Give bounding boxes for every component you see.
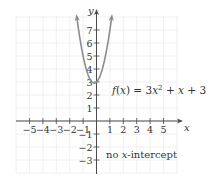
y-tick-label: −3: [78, 155, 92, 166]
function-plus: +: [163, 84, 178, 96]
y-tick-label: 1: [86, 103, 92, 114]
y-axis-label: y: [87, 5, 94, 16]
note-pre: no: [106, 149, 122, 160]
function-label: f(x) = 3x2 + x + 3: [111, 84, 206, 96]
parabola-line: [77, 17, 112, 83]
note-post: -intercept: [127, 149, 177, 160]
y-tick-label: −2: [78, 142, 92, 153]
x-tick-label: 3: [134, 124, 140, 135]
x-tick-label: −2: [63, 124, 77, 135]
x-tick-label: −3: [49, 124, 63, 135]
parabola-graph: −5−4−3−2−112345−3−2−11234567 x y f(x) = …: [0, 0, 211, 183]
x-tick-label: −4: [36, 124, 50, 135]
x-tick-label: −5: [22, 124, 36, 135]
y-tick-label: −1: [78, 129, 92, 140]
x-axis-label: x: [184, 122, 190, 133]
function-eq: = 3: [130, 84, 152, 96]
y-tick-label: 7: [86, 25, 92, 36]
y-tick-label: 6: [86, 38, 92, 49]
no-x-intercept-note: no x-intercept: [106, 149, 177, 160]
y-tick-label: 5: [86, 51, 92, 62]
x-tick-label: 4: [147, 124, 153, 135]
x-tick-label: 1: [107, 124, 113, 135]
y-tick-label: 2: [86, 90, 92, 101]
function-constant: + 3: [184, 84, 206, 96]
parabola-curve: [75, 14, 114, 83]
x-tick-label: 2: [120, 124, 126, 135]
x-tick-label: 5: [160, 124, 166, 135]
